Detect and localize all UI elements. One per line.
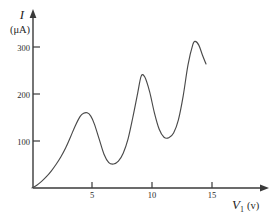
x-axis-title-subscript: 1: [240, 205, 244, 214]
y-axis-title-symbol: I: [19, 7, 25, 22]
x-tick-label-5: 5: [90, 190, 94, 200]
x-tick-label-15: 15: [208, 190, 217, 200]
x-tick-label-10: 10: [148, 190, 157, 200]
y-axis-title: I (μA): [10, 7, 31, 36]
y-axis-ticks: [33, 47, 40, 141]
chart-figure: 300 200 100 5 10 15 I (μA) V1(v): [0, 0, 279, 215]
y-axis-tick-labels: 300 200 100: [17, 43, 30, 147]
axes-group: [30, 9, 269, 191]
current-voltage-curve: [32, 41, 206, 188]
y-axis-title-unit: (μA): [10, 24, 31, 36]
franck-hertz-plot: 300 200 100 5 10 15 I (μA) V1(v): [0, 0, 279, 215]
y-axis-arrow-icon: [30, 9, 37, 18]
x-axis-ticks: [92, 182, 212, 188]
x-axis-title-unit: (v): [247, 200, 260, 212]
x-axis-title: V1(v): [232, 197, 260, 214]
y-tick-label-200: 200: [17, 90, 30, 100]
y-tick-label-300: 300: [17, 43, 30, 53]
x-axis-tick-labels: 5 10 15: [90, 190, 216, 200]
svg-text:V1(v): V1(v): [232, 197, 260, 214]
y-tick-label-100: 100: [17, 137, 30, 147]
x-axis-arrow-icon: [260, 185, 269, 192]
